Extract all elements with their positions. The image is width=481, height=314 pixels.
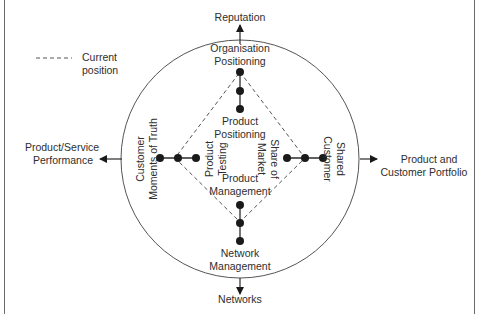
dot-right-2 xyxy=(301,154,309,162)
circle-top-line1: Organisation xyxy=(190,42,290,55)
outcome-product-service-performance: Product/Service Performance xyxy=(20,141,104,166)
outcome-networks: Networks xyxy=(200,293,280,306)
outcome-product-customer-portfolio: Product and Customer Portfolio xyxy=(371,153,477,178)
inner-right-line2: Market xyxy=(256,127,269,191)
circle-bottom-line1: Network xyxy=(190,247,290,260)
legend-label-line1: Current xyxy=(82,51,118,64)
circle-bottom-line2: Management xyxy=(190,260,290,273)
dot-bottom-1 xyxy=(236,201,244,209)
circle-label-customer-moments-of-truth: Customer Moments of Truth xyxy=(134,109,160,209)
circle-left-line1: Customer xyxy=(134,109,147,209)
circle-label-organisation-positioning: Organisation Positioning xyxy=(190,42,290,67)
circle-right-line2: Customer xyxy=(322,119,335,199)
inner-left-line1: Product xyxy=(203,129,216,189)
legend-label-line2: position xyxy=(82,64,118,77)
dot-bottom-3 xyxy=(236,237,244,245)
circle-label-network-management: Network Management xyxy=(190,247,290,272)
position-dots xyxy=(156,68,327,245)
dot-left-3 xyxy=(192,154,200,162)
outcome-left-line2: Performance xyxy=(20,154,104,167)
circle-label-shared-customer: Shared Customer xyxy=(321,119,347,199)
dot-left-2 xyxy=(174,154,182,162)
dot-right-1 xyxy=(283,154,291,162)
circle-top-line2: Positioning xyxy=(190,55,290,68)
dot-top-1 xyxy=(236,68,244,76)
outcome-reputation: Reputation xyxy=(200,11,280,24)
dot-top-2 xyxy=(236,87,244,95)
dot-bottom-2 xyxy=(236,219,244,227)
inner-top-line1: Product xyxy=(195,115,285,128)
circle-right-line1: Shared xyxy=(335,119,348,199)
inner-label-share-of-market: Share of Market xyxy=(255,127,281,191)
inner-left-line2: Testing xyxy=(216,129,229,189)
outcome-reputation-text: Reputation xyxy=(215,11,266,23)
legend-label: Current position xyxy=(82,51,118,76)
circle-left-line2: Moments of Truth xyxy=(147,109,160,209)
inner-label-product-testing: Product Testing xyxy=(203,129,229,189)
inner-right-line1: Share of xyxy=(269,127,282,191)
dot-top-3 xyxy=(236,105,244,113)
outcome-right-line1: Product and xyxy=(371,153,477,166)
outcome-networks-text: Networks xyxy=(218,293,262,305)
outcome-right-line2: Customer Portfolio xyxy=(371,166,477,179)
outcome-left-line1: Product/Service xyxy=(20,141,104,154)
